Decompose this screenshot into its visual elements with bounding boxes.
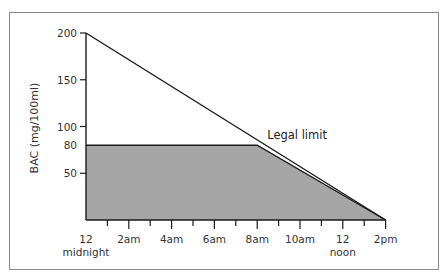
x-tick-label: 8am xyxy=(246,233,269,245)
x-tick-label: 4am xyxy=(160,233,183,245)
x-tick-label: 12 xyxy=(336,233,349,245)
y-axis-title: BAC (mg/100ml) xyxy=(28,83,41,174)
shaded-region xyxy=(86,145,386,220)
x-tick-label: 2pm xyxy=(374,233,398,245)
x-tick-label: 10am xyxy=(285,233,315,245)
y-tick-label: 200 xyxy=(57,27,77,39)
x-tick-sublabel: midnight xyxy=(63,246,110,258)
y-tick-label: 150 xyxy=(57,74,77,86)
bac-chart: 508010015020012midnight2am4am6am8am10am1… xyxy=(0,0,448,280)
y-tick-label: 50 xyxy=(64,167,77,179)
x-tick-label: 2am xyxy=(117,233,140,245)
legal-limit-annotation: Legal limit xyxy=(267,128,327,142)
y-tick-label: 100 xyxy=(57,121,77,133)
y-tick-label: 80 xyxy=(64,139,77,151)
x-tick-label: 12 xyxy=(79,233,92,245)
x-tick-label: 6am xyxy=(203,233,226,245)
plot-area: 508010015020012midnight2am4am6am8am10am1… xyxy=(28,27,397,258)
x-tick-sublabel: noon xyxy=(330,246,356,258)
